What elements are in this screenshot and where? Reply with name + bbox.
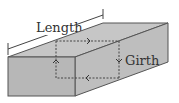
girth-label: Girth: [125, 53, 160, 68]
box-diagram: Length Girth: [0, 0, 179, 103]
box-front-face: [8, 57, 75, 96]
